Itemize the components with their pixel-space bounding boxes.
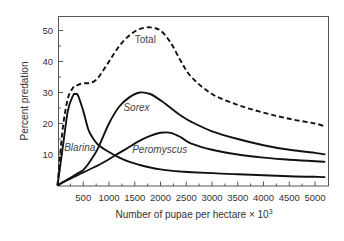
series-lines xyxy=(58,27,326,185)
y-tick-label: 10 xyxy=(42,149,53,160)
x-axis-title-text: Number of pupae per hectare × 10 xyxy=(115,209,269,220)
series-labels: TotalSorexBlarinaPeromyscus xyxy=(64,34,187,155)
series-label-sorex: Sorex xyxy=(123,102,150,113)
x-tick-label: 4000 xyxy=(253,192,274,203)
series-label-total: Total xyxy=(135,34,156,45)
y-axis: 1020304050 xyxy=(42,25,63,170)
series-blarina-line xyxy=(58,94,326,186)
x-tick-label: 2500 xyxy=(176,192,197,203)
y-tick-label: 50 xyxy=(42,25,53,36)
x-tick-label: 2000 xyxy=(150,192,171,203)
x-tick-label: 5000 xyxy=(304,192,325,203)
x-tick-label: 4500 xyxy=(279,192,300,203)
x-tick-label: 3000 xyxy=(201,192,222,203)
x-axis: 500100015002000250030003500400045005000 xyxy=(70,182,325,204)
y-tick-label: 20 xyxy=(42,118,53,129)
x-tick-label: 1000 xyxy=(98,192,119,203)
series-total-line xyxy=(58,27,326,185)
predation-chart: 1020304050 50010001500200025003000350040… xyxy=(0,0,344,241)
x-tick-label: 3500 xyxy=(227,192,248,203)
y-tick-label: 30 xyxy=(42,87,53,98)
x-tick-label: 1500 xyxy=(124,192,145,203)
x-axis-title-superscript: 3 xyxy=(269,208,273,215)
y-tick-label: 40 xyxy=(42,56,53,67)
x-tick-label: 500 xyxy=(75,192,91,203)
y-axis-title: Percent predation xyxy=(19,62,30,141)
series-label-blarina: Blarina xyxy=(64,142,96,153)
series-peromyscus-line xyxy=(58,132,326,185)
series-label-peromyscus: Peromyscus xyxy=(132,144,187,155)
x-axis-title: Number of pupae per hectare × 103 xyxy=(115,208,272,220)
